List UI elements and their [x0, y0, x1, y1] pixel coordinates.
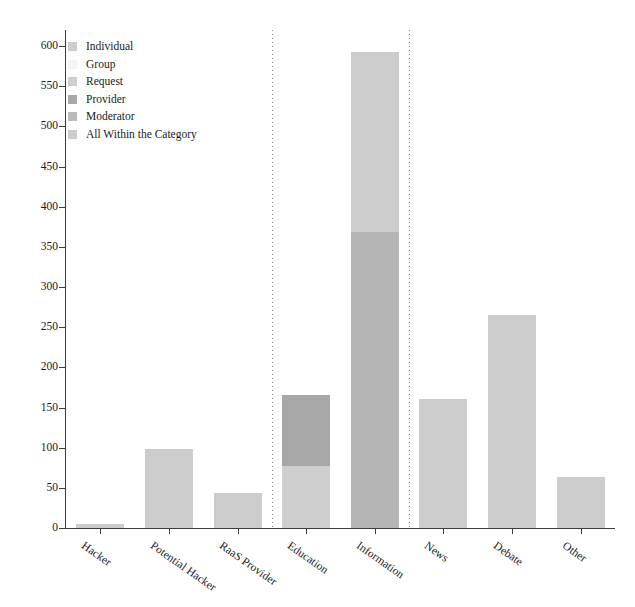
legend-item-label: Moderator [86, 111, 135, 123]
legend-swatch-icon [68, 95, 77, 104]
bar-segment-all-within-the-category[interactable] [419, 399, 467, 528]
y-axis-tick-label: 0 [18, 522, 58, 534]
bar-raas-provider[interactable] [214, 493, 262, 528]
legend-item-label: All Within the Category [86, 129, 197, 141]
bar-information[interactable] [351, 52, 399, 528]
y-axis-tick [59, 126, 65, 127]
legend-swatch-icon [68, 130, 77, 139]
x-axis-tick [100, 528, 101, 534]
y-axis-tick [59, 367, 65, 368]
y-axis-tick [59, 207, 65, 208]
bar-segment-all-within-the-category[interactable] [557, 477, 605, 528]
x-axis-tick [581, 528, 582, 534]
bar-segment-individual[interactable] [214, 493, 262, 528]
x-axis-label-debate: Debate [491, 540, 524, 568]
y-axis-tick-label: 600 [18, 40, 58, 52]
legend-item-moderator[interactable]: Moderator [68, 108, 258, 126]
bar-news[interactable] [419, 399, 467, 528]
x-axis-label-information: Information [354, 540, 406, 581]
legend-item-request[interactable]: Request [68, 73, 258, 91]
x-axis-tick [512, 528, 513, 534]
y-axis-tick [59, 46, 65, 47]
x-axis-label-raas-provider: RaaS Provider [217, 540, 278, 588]
y-axis-tick-label: 200 [18, 361, 58, 373]
legend-item-individual[interactable]: Individual [68, 38, 258, 56]
y-axis-tick-label: 50 [18, 482, 58, 494]
y-axis-tick [59, 287, 65, 288]
y-axis-tick-label: 350 [18, 241, 58, 253]
x-axis-tick [238, 528, 239, 534]
x-axis-label-news: News [423, 540, 451, 564]
legend-swatch-icon [68, 77, 77, 86]
y-axis-tick-label: 300 [18, 281, 58, 293]
x-axis-label-potential-hacker: Potential Hacker [148, 540, 218, 594]
chart-legend: IndividualGroupRequestProviderModeratorA… [68, 38, 258, 143]
legend-item-label: Provider [86, 94, 126, 106]
y-axis-tick-label: 400 [18, 201, 58, 213]
bar-segment-individual[interactable] [76, 524, 124, 528]
x-axis-tick [169, 528, 170, 534]
bar-debate[interactable] [488, 315, 536, 528]
bar-segment-individual[interactable] [145, 449, 193, 528]
x-axis-label-other: Other [560, 540, 588, 564]
y-axis-tick [59, 247, 65, 248]
legend-item-provider[interactable]: Provider [68, 91, 258, 109]
y-axis-tick [59, 167, 65, 168]
x-axis-label-education: Education [286, 540, 331, 576]
y-axis-tick-label: 450 [18, 161, 58, 173]
y-axis-tick [59, 448, 65, 449]
y-axis-tick-label: 150 [18, 402, 58, 414]
x-axis-label-hacker: Hacker [80, 540, 114, 568]
legend-item-label: Group [86, 59, 115, 71]
legend-swatch-icon [68, 60, 77, 69]
legend-item-all-within-the-category[interactable]: All Within the Category [68, 126, 258, 144]
bar-chart: 050100150200250300350400450500550600 Hac… [0, 0, 635, 607]
bar-other[interactable] [557, 477, 605, 528]
x-axis-tick [443, 528, 444, 534]
y-axis-tick [59, 488, 65, 489]
bar-segment-request[interactable] [282, 466, 330, 528]
y-axis-tick [59, 86, 65, 87]
x-axis-tick [375, 528, 376, 534]
bar-education[interactable] [282, 395, 330, 528]
bar-segment-provider[interactable] [282, 395, 330, 466]
y-axis-tick-label: 100 [18, 442, 58, 454]
legend-item-group[interactable]: Group [68, 56, 258, 74]
bar-segment-all-within-the-category[interactable] [351, 52, 399, 232]
x-axis-line [65, 528, 615, 529]
bar-segment-all-within-the-category[interactable] [488, 315, 536, 528]
x-axis-tick [306, 528, 307, 534]
bar-hacker[interactable] [76, 524, 124, 528]
legend-swatch-icon [68, 42, 77, 51]
bar-potential-hacker[interactable] [145, 449, 193, 528]
y-axis-tick-label: 550 [18, 80, 58, 92]
bar-segment-moderator[interactable] [351, 232, 399, 528]
legend-swatch-icon [68, 112, 77, 121]
y-axis-tick [59, 528, 65, 529]
y-axis-tick [59, 327, 65, 328]
y-axis-tick [59, 408, 65, 409]
legend-item-label: Request [86, 76, 123, 88]
y-axis-tick-label: 500 [18, 120, 58, 132]
y-axis-tick-label: 250 [18, 321, 58, 333]
legend-item-label: Individual [86, 41, 133, 53]
